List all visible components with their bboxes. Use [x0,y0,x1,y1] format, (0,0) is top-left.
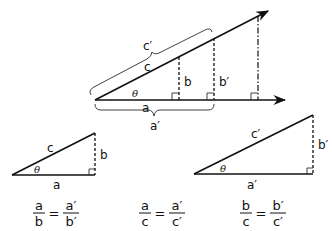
label-theta: θ [34,164,40,175]
label-c: c [47,141,54,155]
label-c-prime: c′ [251,127,261,141]
eq2-equals: = [155,206,166,221]
eq2-den2: c′ [172,214,182,229]
label-a-prime: a′ [150,119,160,133]
label-c: c [144,60,151,74]
label-theta: θ [220,163,226,174]
brace-a-prime [95,104,214,116]
label-b: b [100,148,108,162]
eq3-num1: b [242,198,250,213]
eq2-num2: a′ [172,198,183,213]
eq1-den1: b [35,214,43,229]
eq3-den1: c [242,214,249,229]
eq3-num2: b′ [272,198,283,213]
label-a-prime: a′ [247,178,257,192]
label-c-prime: c′ [143,39,153,53]
equation-2: a c = a′ c′ [139,198,185,229]
inclined-ray [95,11,268,100]
eq2-num1: a [141,198,149,213]
label-b-prime: b′ [219,75,230,89]
label-b-prime: b′ [318,138,329,152]
main-figure: c′ c θ b b′ a a′ [90,11,285,133]
equation-3: b c = b′ c′ [240,198,286,229]
eq3-equals: = [256,206,267,221]
eq1-num1: a [35,198,43,213]
right-angle-marker [89,169,95,175]
eq1-num2: a′ [66,198,77,213]
diagram-canvas: c′ c θ b b′ a a′ c b θ a c′ b′ θ a′ a b … [0,0,332,231]
right-angle-marker [207,93,214,100]
triangle-small: c b θ a [12,133,108,192]
label-b: b [184,75,192,89]
eq1-den2: b′ [65,214,76,229]
label-a: a [142,101,149,115]
eq2-den1: c [141,214,148,229]
label-a: a [53,178,60,192]
right-angle-marker [307,168,313,174]
hypotenuse-c-prime [194,115,313,174]
eq1-equals: = [49,206,60,221]
label-theta: θ [132,88,138,99]
right-angle-marker [251,93,258,100]
right-angle-marker [172,93,179,100]
equation-1: a b = a′ b′ [33,198,79,229]
eq3-den2: c′ [273,214,283,229]
triangle-large: c′ b′ θ a′ [194,115,329,192]
